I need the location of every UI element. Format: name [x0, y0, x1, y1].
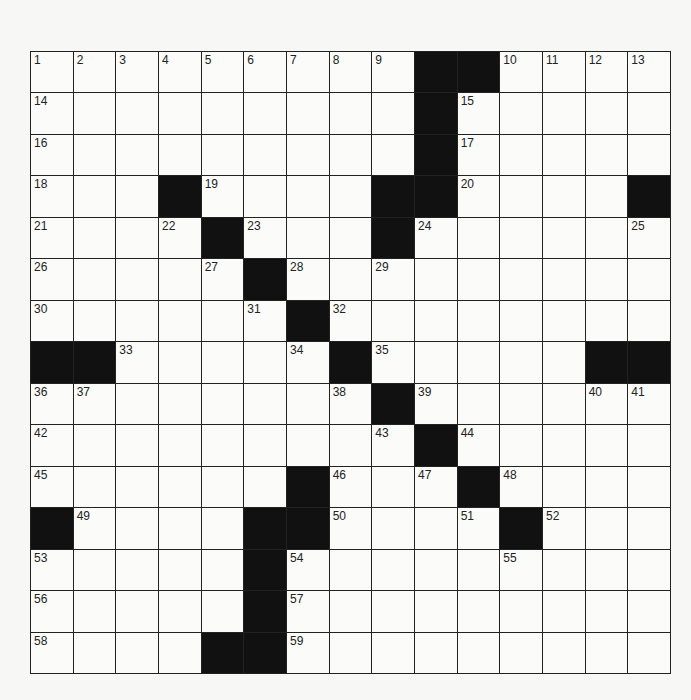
- grid-cell[interactable]: [74, 135, 116, 175]
- grid-cell[interactable]: [543, 550, 585, 590]
- grid-cell[interactable]: 3: [116, 52, 158, 92]
- grid-cell[interactable]: [244, 467, 286, 507]
- grid-cell[interactable]: 39: [415, 384, 457, 424]
- grid-cell[interactable]: [202, 467, 244, 507]
- grid-cell[interactable]: [586, 425, 628, 465]
- grid-cell[interactable]: [543, 176, 585, 216]
- grid-cell[interactable]: 30: [31, 301, 73, 341]
- grid-cell[interactable]: [159, 259, 201, 299]
- grid-cell[interactable]: 29: [372, 259, 414, 299]
- grid-cell[interactable]: [330, 259, 372, 299]
- grid-cell[interactable]: [458, 633, 500, 673]
- grid-cell[interactable]: 32: [330, 301, 372, 341]
- grid-cell[interactable]: 17: [458, 135, 500, 175]
- grid-cell[interactable]: [628, 301, 670, 341]
- grid-cell[interactable]: 20: [458, 176, 500, 216]
- grid-cell[interactable]: [330, 93, 372, 133]
- grid-cell[interactable]: [628, 93, 670, 133]
- grid-cell[interactable]: [287, 93, 329, 133]
- grid-cell[interactable]: [586, 591, 628, 631]
- grid-cell[interactable]: [543, 301, 585, 341]
- grid-cell[interactable]: [330, 176, 372, 216]
- grid-cell[interactable]: 4: [159, 52, 201, 92]
- grid-cell[interactable]: [74, 93, 116, 133]
- grid-cell[interactable]: [586, 176, 628, 216]
- grid-cell[interactable]: [628, 135, 670, 175]
- grid-cell[interactable]: 47: [415, 467, 457, 507]
- grid-cell[interactable]: 26: [31, 259, 73, 299]
- grid-cell[interactable]: 27: [202, 259, 244, 299]
- grid-cell[interactable]: [116, 591, 158, 631]
- grid-cell[interactable]: [372, 93, 414, 133]
- grid-cell[interactable]: [116, 633, 158, 673]
- grid-cell[interactable]: [372, 301, 414, 341]
- grid-cell[interactable]: [500, 425, 542, 465]
- grid-cell[interactable]: [330, 425, 372, 465]
- grid-cell[interactable]: 40: [586, 384, 628, 424]
- grid-cell[interactable]: [543, 425, 585, 465]
- grid-cell[interactable]: 9: [372, 52, 414, 92]
- grid-cell[interactable]: [244, 93, 286, 133]
- grid-cell[interactable]: [543, 384, 585, 424]
- grid-cell[interactable]: [202, 342, 244, 382]
- grid-cell[interactable]: [500, 342, 542, 382]
- grid-cell[interactable]: [287, 384, 329, 424]
- grid-cell[interactable]: [500, 176, 542, 216]
- grid-cell[interactable]: [586, 301, 628, 341]
- grid-cell[interactable]: [159, 591, 201, 631]
- grid-cell[interactable]: 23: [244, 218, 286, 258]
- grid-cell[interactable]: [415, 591, 457, 631]
- grid-cell[interactable]: 7: [287, 52, 329, 92]
- grid-cell[interactable]: [74, 467, 116, 507]
- grid-cell[interactable]: [372, 508, 414, 548]
- grid-cell[interactable]: 21: [31, 218, 73, 258]
- grid-cell[interactable]: [543, 342, 585, 382]
- grid-cell[interactable]: 2: [74, 52, 116, 92]
- grid-cell[interactable]: 55: [500, 550, 542, 590]
- grid-cell[interactable]: 46: [330, 467, 372, 507]
- grid-cell[interactable]: [116, 93, 158, 133]
- grid-cell[interactable]: 31: [244, 301, 286, 341]
- grid-cell[interactable]: [586, 259, 628, 299]
- grid-cell[interactable]: [287, 135, 329, 175]
- grid-cell[interactable]: [116, 550, 158, 590]
- grid-cell[interactable]: [628, 550, 670, 590]
- grid-cell[interactable]: [202, 425, 244, 465]
- grid-cell[interactable]: [74, 176, 116, 216]
- grid-cell[interactable]: 18: [31, 176, 73, 216]
- grid-cell[interactable]: [74, 301, 116, 341]
- grid-cell[interactable]: [287, 176, 329, 216]
- grid-cell[interactable]: [159, 633, 201, 673]
- grid-cell[interactable]: [159, 135, 201, 175]
- grid-cell[interactable]: [74, 550, 116, 590]
- grid-cell[interactable]: [244, 176, 286, 216]
- grid-cell[interactable]: 43: [372, 425, 414, 465]
- grid-cell[interactable]: [543, 93, 585, 133]
- grid-cell[interactable]: [500, 218, 542, 258]
- grid-cell[interactable]: 22: [159, 218, 201, 258]
- grid-cell[interactable]: [500, 633, 542, 673]
- grid-cell[interactable]: 15: [458, 93, 500, 133]
- grid-cell[interactable]: [159, 550, 201, 590]
- grid-cell[interactable]: 25: [628, 218, 670, 258]
- grid-cell[interactable]: [458, 218, 500, 258]
- grid-cell[interactable]: [628, 633, 670, 673]
- grid-cell[interactable]: [116, 176, 158, 216]
- grid-cell[interactable]: [330, 591, 372, 631]
- grid-cell[interactable]: [543, 259, 585, 299]
- grid-cell[interactable]: 14: [31, 93, 73, 133]
- grid-cell[interactable]: [500, 93, 542, 133]
- grid-cell[interactable]: [116, 301, 158, 341]
- grid-cell[interactable]: [159, 342, 201, 382]
- grid-cell[interactable]: 48: [500, 467, 542, 507]
- grid-cell[interactable]: [500, 384, 542, 424]
- grid-cell[interactable]: [372, 135, 414, 175]
- grid-cell[interactable]: [586, 93, 628, 133]
- grid-cell[interactable]: [500, 591, 542, 631]
- grid-cell[interactable]: 1: [31, 52, 73, 92]
- grid-cell[interactable]: [74, 591, 116, 631]
- grid-cell[interactable]: [372, 591, 414, 631]
- grid-cell[interactable]: 8: [330, 52, 372, 92]
- grid-cell[interactable]: 51: [458, 508, 500, 548]
- grid-cell[interactable]: [116, 218, 158, 258]
